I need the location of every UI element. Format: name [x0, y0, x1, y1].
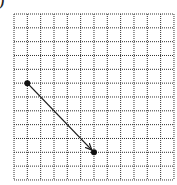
vector-arrow	[27, 83, 92, 150]
end-point	[91, 149, 97, 155]
start-point	[24, 80, 30, 86]
grid-diagram	[0, 0, 177, 185]
